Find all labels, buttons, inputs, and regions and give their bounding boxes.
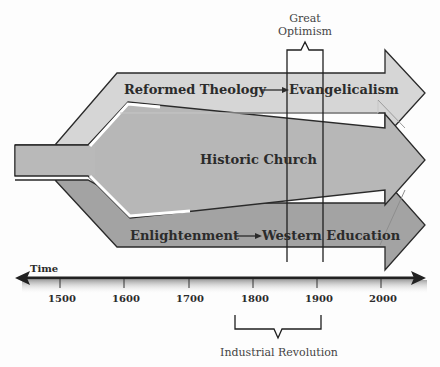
tick-label-2000: 2000 bbox=[369, 293, 397, 304]
diagram-svg: Great Optimism Reformed Theology Evangel… bbox=[0, 0, 440, 367]
timeline: Time 1500 1600 1700 1800 1900 2000 bbox=[15, 263, 427, 304]
great-optimism-label-line1: Great bbox=[289, 12, 321, 25]
timeline-label: Time bbox=[30, 263, 58, 274]
enlightenment-label: Enlightenment bbox=[130, 228, 239, 243]
tick-label-1900: 1900 bbox=[305, 293, 333, 304]
tick-label-1500: 1500 bbox=[48, 293, 76, 304]
industrial-revolution-label: Industrial Revolution bbox=[220, 346, 338, 359]
tick-label-1700: 1700 bbox=[176, 293, 204, 304]
evangelicalism-label: Evangelicalism bbox=[289, 82, 399, 97]
industrial-revolution-bracket bbox=[235, 315, 321, 338]
tick-label-1800: 1800 bbox=[241, 293, 269, 304]
great-optimism-label-line2: Optimism bbox=[278, 25, 333, 38]
great-optimism-bracket bbox=[287, 42, 323, 52]
trunk bbox=[15, 146, 95, 175]
diagram-canvas: Great Optimism Reformed Theology Evangel… bbox=[0, 0, 440, 367]
western-education-label: Western Education bbox=[261, 228, 401, 243]
historic-church-label: Historic Church bbox=[200, 152, 317, 167]
tick-label-1600: 1600 bbox=[112, 293, 140, 304]
timeline-shadow bbox=[22, 280, 427, 294]
reformed-theology-label: Reformed Theology bbox=[124, 82, 267, 97]
